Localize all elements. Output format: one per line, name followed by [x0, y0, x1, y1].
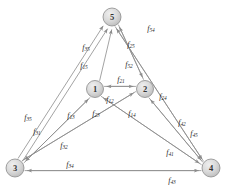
- edge-label-31: f31: [33, 127, 41, 137]
- node-1[interactable]: 1: [87, 81, 104, 98]
- node-label-1: 1: [93, 84, 97, 94]
- diagram-canvas: 51234 f54f25f35f15f52f21f12f24f35f31f13f…: [0, 0, 228, 189]
- edge-label-52: f52: [125, 60, 133, 70]
- edge-label-14: f14: [128, 109, 136, 119]
- edge-label-41: f41: [166, 148, 174, 158]
- edge-label-23: f23: [92, 109, 100, 119]
- edge-label-32: f32: [60, 141, 68, 151]
- node-5[interactable]: 5: [103, 8, 121, 26]
- edge-label-45: f45: [190, 129, 198, 139]
- edge-label-35: f35: [82, 43, 90, 53]
- edge-label-34: f34: [66, 160, 74, 170]
- edge-1-to-5: [100, 29, 112, 80]
- edge-label-13: f13: [67, 111, 75, 121]
- edge-4-to-1: [103, 98, 201, 165]
- edge-label-21: f21: [117, 75, 125, 85]
- node-4[interactable]: 4: [202, 159, 220, 177]
- node-label-3: 3: [13, 163, 17, 173]
- edge-labels-layer: f54f25f35f15f52f21f12f24f35f31f13f23f14f…: [24, 24, 198, 186]
- edge-label-54: f54: [147, 24, 155, 34]
- edge-5-to-2: [118, 25, 142, 78]
- edge-label-42: f42: [178, 118, 186, 128]
- edge-4-to-2: [151, 100, 203, 163]
- graph-svg: 51234 f54f25f35f15f52f21f12f24f35f31f13f…: [0, 0, 228, 189]
- node-3[interactable]: 3: [6, 159, 24, 177]
- edge-label-35: f35: [24, 113, 32, 123]
- edge-label-24: f24: [159, 92, 167, 102]
- nodes-layer: 51234: [6, 8, 220, 177]
- node-2[interactable]: 2: [137, 81, 154, 98]
- edge-label-12: f12: [106, 95, 114, 105]
- edge-label-15: f15: [80, 61, 88, 71]
- node-label-2: 2: [143, 84, 147, 94]
- node-label-5: 5: [110, 12, 114, 22]
- edge-label-43: f43: [168, 176, 176, 186]
- edge-label-25: f25: [127, 40, 135, 50]
